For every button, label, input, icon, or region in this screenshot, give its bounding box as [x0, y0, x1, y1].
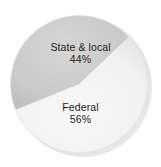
pie-chart: State & local 44% Federal 56%: [0, 0, 161, 167]
pie-figure: [0, 0, 161, 167]
